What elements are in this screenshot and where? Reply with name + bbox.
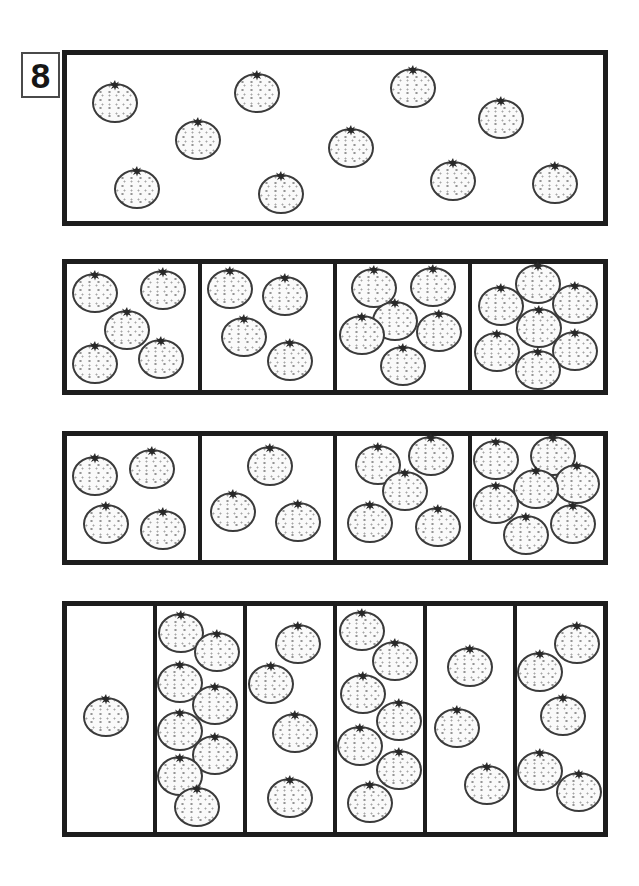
orange-stem-icon bbox=[566, 501, 579, 512]
orange-stem-icon bbox=[425, 433, 438, 444]
orange bbox=[207, 269, 253, 309]
choice-row-3-cell-2[interactable] bbox=[153, 606, 243, 832]
choice-row-2-cell-3[interactable] bbox=[333, 436, 468, 560]
choice-row-3-cell-4[interactable] bbox=[333, 606, 423, 832]
orange bbox=[339, 315, 385, 355]
orange bbox=[554, 624, 600, 664]
orange bbox=[337, 726, 383, 766]
orange-stem-icon bbox=[88, 270, 101, 281]
orange-stem-icon bbox=[175, 610, 188, 621]
orange-stem-icon bbox=[464, 644, 477, 655]
choice-row-1-cell-1[interactable] bbox=[67, 264, 198, 390]
orange bbox=[447, 647, 493, 687]
orange bbox=[83, 697, 129, 737]
choice-row-2-cell-4[interactable] bbox=[468, 436, 603, 560]
orange bbox=[474, 332, 520, 372]
orange-stem-icon bbox=[174, 708, 187, 719]
choice-row-3-cell-6[interactable] bbox=[513, 606, 603, 832]
orange bbox=[339, 611, 385, 651]
orange-stem-icon bbox=[388, 298, 401, 309]
orange-stem-icon bbox=[192, 117, 205, 128]
orange-stem-icon bbox=[556, 693, 569, 704]
orange-stem-icon bbox=[355, 312, 368, 323]
choice-row-2 bbox=[62, 431, 608, 565]
orange bbox=[92, 83, 138, 123]
orange bbox=[328, 128, 374, 168]
orange bbox=[430, 161, 476, 201]
orange-stem-icon bbox=[431, 504, 444, 515]
orange-stem-icon bbox=[265, 661, 278, 672]
orange-stem-icon bbox=[156, 267, 169, 278]
orange bbox=[174, 787, 220, 827]
orange-stem-icon bbox=[569, 328, 582, 339]
orange bbox=[372, 641, 418, 681]
orange-stem-icon bbox=[571, 621, 584, 632]
orange-stem-icon bbox=[283, 338, 296, 349]
orange-stem-icon bbox=[264, 443, 277, 454]
orange bbox=[473, 440, 519, 480]
orange-stem-icon bbox=[494, 283, 507, 294]
orange-stem-icon bbox=[433, 309, 446, 320]
orange-stem-icon bbox=[396, 343, 409, 354]
orange-stem-icon bbox=[237, 314, 250, 325]
orange bbox=[347, 783, 393, 823]
orange-stem-icon bbox=[495, 96, 508, 107]
choice-row-3-cell-5[interactable] bbox=[423, 606, 513, 832]
orange-stem-icon bbox=[531, 347, 544, 358]
orange bbox=[478, 99, 524, 139]
orange bbox=[552, 284, 598, 324]
orange-stem-icon bbox=[531, 261, 544, 272]
orange-stem-icon bbox=[572, 769, 585, 780]
orange bbox=[550, 504, 596, 544]
orange-stem-icon bbox=[388, 638, 401, 649]
orange-stem-icon bbox=[209, 682, 222, 693]
orange bbox=[221, 317, 267, 357]
orange bbox=[340, 674, 386, 714]
orange-stem-icon bbox=[406, 65, 419, 76]
choice-row-3 bbox=[62, 601, 608, 837]
orange-stem-icon bbox=[289, 710, 302, 721]
choice-row-3-cell-3[interactable] bbox=[243, 606, 333, 832]
orange bbox=[234, 73, 280, 113]
orange-stem-icon bbox=[291, 499, 304, 510]
orange-stem-icon bbox=[354, 723, 367, 734]
orange bbox=[138, 339, 184, 379]
orange-stem-icon bbox=[490, 437, 503, 448]
orange-stem-icon bbox=[534, 748, 547, 759]
orange-stem-icon bbox=[363, 780, 376, 791]
orange bbox=[272, 713, 318, 753]
choice-row-2-cell-2[interactable] bbox=[198, 436, 333, 560]
orange-stem-icon bbox=[548, 161, 561, 172]
orange bbox=[515, 350, 561, 390]
orange bbox=[434, 708, 480, 748]
choice-row-2-cell-1[interactable] bbox=[67, 436, 198, 560]
orange-stem-icon bbox=[130, 166, 143, 177]
orange bbox=[376, 750, 422, 790]
orange bbox=[248, 664, 294, 704]
orange-stem-icon bbox=[88, 341, 101, 352]
orange bbox=[390, 68, 436, 108]
orange bbox=[72, 273, 118, 313]
orange bbox=[210, 492, 256, 532]
orange bbox=[175, 120, 221, 160]
orange bbox=[83, 504, 129, 544]
orange-stem-icon bbox=[367, 265, 380, 276]
orange-stem-icon bbox=[392, 698, 405, 709]
orange-stem-icon bbox=[227, 489, 240, 500]
example-box-cell-1 bbox=[67, 55, 603, 221]
choice-row-1-cell-2[interactable] bbox=[198, 264, 333, 390]
orange bbox=[540, 696, 586, 736]
orange-stem-icon bbox=[275, 171, 288, 182]
choice-row-1-cell-3[interactable] bbox=[333, 264, 468, 390]
orange-stem-icon bbox=[569, 281, 582, 292]
orange-stem-icon bbox=[481, 762, 494, 773]
orange bbox=[104, 310, 150, 350]
choice-row-3-cell-1[interactable] bbox=[67, 606, 153, 832]
orange-stem-icon bbox=[345, 125, 358, 136]
orange-stem-icon bbox=[109, 80, 122, 91]
orange-stem-icon bbox=[174, 660, 187, 671]
orange-stem-icon bbox=[426, 264, 439, 275]
orange bbox=[72, 456, 118, 496]
orange bbox=[554, 464, 600, 504]
choice-row-1-cell-4[interactable] bbox=[468, 264, 603, 390]
